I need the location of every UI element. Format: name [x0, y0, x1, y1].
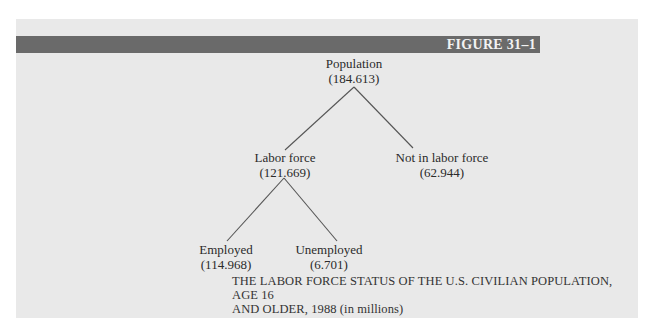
edge-laborforce-employed: [227, 178, 284, 241]
node-value: (184.613): [326, 71, 382, 86]
node-value: (114.968): [199, 257, 252, 272]
node-label: Not in labor force: [396, 150, 489, 165]
caption-line-2: AND OLDER, 1988 (in millions): [232, 302, 632, 316]
node-value: (6.701): [295, 257, 362, 272]
figure-caption: THE LABOR FORCE STATUS OF THE U.S. CIVIL…: [232, 274, 632, 316]
node-value: (62.944): [396, 165, 489, 180]
node-label: Employed: [199, 242, 252, 257]
node-not-in-labor-force: Not in labor force (62.944): [396, 150, 489, 180]
caption-line-1: THE LABOR FORCE STATUS OF THE U.S. CIVIL…: [232, 274, 632, 302]
node-label: Unemployed: [295, 242, 362, 257]
node-employed: Employed (114.968): [199, 242, 252, 272]
node-population: Population (184.613): [326, 56, 382, 86]
edge-population-laborforce: [285, 87, 354, 150]
node-labor-force: Labor force (121.669): [255, 150, 316, 180]
edge-laborforce-unemployed: [284, 178, 337, 241]
node-unemployed: Unemployed (6.701): [295, 242, 362, 272]
node-value: (121.669): [255, 165, 316, 180]
edge-population-notinlaborforce: [354, 87, 413, 148]
node-label: Population: [326, 56, 382, 71]
node-label: Labor force: [255, 150, 316, 165]
